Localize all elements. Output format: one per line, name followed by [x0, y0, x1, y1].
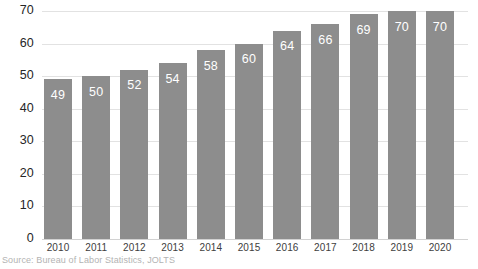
- bar[interactable]: [311, 24, 339, 239]
- source-note: Source: Bureau of Labor Statistics, JOLT…: [2, 256, 175, 265]
- bar[interactable]: [82, 76, 110, 239]
- x-axis-tick-label: 2013: [153, 243, 193, 253]
- x-axis-tick-label: 2020: [420, 243, 460, 253]
- bar-value-label: 70: [426, 21, 454, 34]
- bar-value-label: 70: [388, 21, 416, 34]
- bar-value-label: 58: [197, 60, 225, 73]
- x-axis-tick-label: 2014: [191, 243, 231, 253]
- x-axis-tick-label: 2010: [38, 243, 78, 253]
- x-axis-tick-label: 2016: [267, 243, 307, 253]
- bar[interactable]: [426, 11, 454, 239]
- x-axis-tick-label: 2012: [114, 243, 154, 253]
- bar-value-label: 64: [273, 40, 301, 53]
- y-axis-tick-label: 50: [4, 69, 34, 82]
- bar[interactable]: [44, 79, 72, 239]
- bar-slot: 64: [273, 0, 301, 239]
- bar-slot: 49: [44, 0, 72, 239]
- bar-value-label: 50: [82, 86, 110, 99]
- x-axis-tick-label: 2018: [344, 243, 384, 253]
- y-axis-tick-label: 0: [4, 232, 34, 245]
- bar-slot: 52: [120, 0, 148, 239]
- bar-slot: 54: [159, 0, 187, 239]
- bar-value-label: 52: [120, 79, 148, 92]
- x-axis-tick-label: 2011: [76, 243, 116, 253]
- bar[interactable]: [235, 44, 263, 239]
- bar[interactable]: [120, 70, 148, 239]
- bar-slot: 66: [311, 0, 339, 239]
- bar-value-label: 60: [235, 53, 263, 66]
- x-axis-tick-label: 2015: [229, 243, 269, 253]
- bar-slot: 58: [197, 0, 225, 239]
- bar-chart: 4950525458606466697070 20102011201220132…: [0, 0, 478, 269]
- bar[interactable]: [197, 50, 225, 239]
- bar[interactable]: [273, 31, 301, 239]
- bar-value-label: 49: [44, 89, 72, 102]
- bar[interactable]: [159, 63, 187, 239]
- x-axis-tick-label: 2019: [382, 243, 422, 253]
- gridline: [42, 239, 468, 240]
- bar[interactable]: [388, 11, 416, 239]
- bar-slot: 70: [426, 0, 454, 239]
- y-axis-tick-label: 40: [4, 102, 34, 115]
- y-axis-tick-label: 20: [4, 167, 34, 180]
- bar-slot: 50: [82, 0, 110, 239]
- y-axis-tick-label: 30: [4, 134, 34, 147]
- x-axis-tick-label: 2017: [305, 243, 345, 253]
- bar-series: 4950525458606466697070: [42, 0, 468, 239]
- y-axis-tick-label: 60: [4, 37, 34, 50]
- bar-slot: 69: [350, 0, 378, 239]
- y-axis-tick-label: 10: [4, 199, 34, 212]
- bar-slot: 70: [388, 0, 416, 239]
- bar-slot: 60: [235, 0, 263, 239]
- y-axis-tick-label: 70: [4, 4, 34, 17]
- bar[interactable]: [350, 14, 378, 239]
- bar-value-label: 69: [350, 24, 378, 37]
- bar-value-label: 54: [159, 73, 187, 86]
- bar-value-label: 66: [311, 34, 339, 47]
